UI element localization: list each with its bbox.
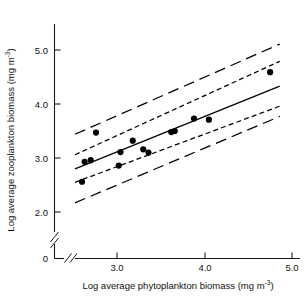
data-point [93,130,99,136]
x-tick-marks [117,253,292,259]
y-tick-label-2: 2.0 [35,207,48,218]
x-tick-label-5: 5.0 [285,262,298,273]
confidence-limit-lower-line [75,106,280,182]
y-axis-title-tail: ) [5,48,16,51]
data-point [172,128,178,134]
origin-label: 0 [43,253,48,264]
data-point [191,115,197,121]
prediction-limit-upper-line [75,44,280,134]
data-point [130,138,136,144]
x-tick-label-4: 4.0 [198,262,211,273]
data-point [117,149,123,155]
y-axis-title-main: Log average zooplankton biomass (mg m [5,57,16,231]
axes-group [51,24,301,263]
data-point [116,162,122,168]
y-tick-label-5: 5.0 [35,45,48,56]
data-point [88,157,94,163]
x-tick-labels: 3.0 4.0 5.0 [110,262,298,273]
y-tick-labels: 5.0 4.0 3.0 2.0 0 [35,45,48,265]
x-axis-title-main: Log average phytoplankton biomass (mg m [82,280,264,291]
x-axis-title-tail: ) [270,280,273,291]
data-point [79,179,85,185]
data-point [267,69,273,75]
regression-bands-layer [75,44,280,203]
x-tick-label-3: 3.0 [110,262,123,273]
y-tick-label-4: 4.0 [35,99,48,110]
data-points-layer [79,69,273,185]
regression-line [75,86,280,169]
scatter-plot-svg: 5.0 4.0 3.0 2.0 0 3.0 4.0 5.0 Log averag… [0,0,308,299]
y-tick-marks [55,50,61,212]
y-axis-title: Log average zooplankton biomass (mg m-3) [4,48,16,231]
data-point [206,117,212,123]
y-tick-label-3: 3.0 [35,153,48,164]
figure-panel: 5.0 4.0 3.0 2.0 0 3.0 4.0 5.0 Log averag… [0,0,308,299]
data-point [82,159,88,165]
data-point [140,146,146,152]
confidence-limit-upper-line [75,61,280,154]
x-axis-title: Log average phytoplankton biomass (mg m-… [82,279,273,291]
data-point [145,150,151,156]
